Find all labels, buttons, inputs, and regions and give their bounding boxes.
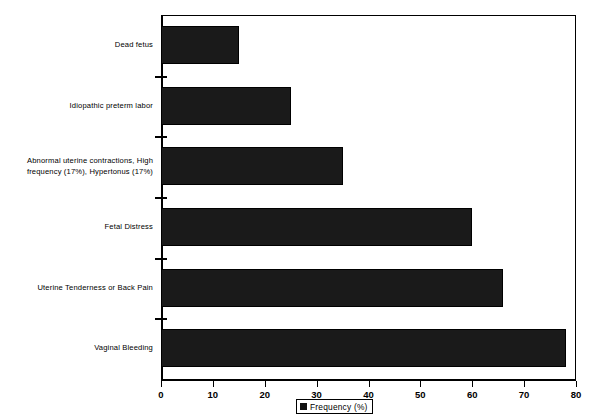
x-axis-tick <box>213 381 214 387</box>
bar <box>161 147 343 185</box>
category-axis-labels: Dead fetusIdiopathic preterm laborAbnorm… <box>0 15 157 379</box>
bar-row <box>161 258 576 319</box>
x-axis-tick-label: 10 <box>193 389 233 400</box>
x-axis-tick-label: 60 <box>452 389 492 400</box>
x-axis-tick-label: 0 <box>141 389 181 400</box>
x-axis-tick <box>472 381 473 387</box>
category-label: Dead fetus <box>0 40 153 51</box>
x-axis-tick <box>420 381 421 387</box>
bar <box>161 269 503 307</box>
y-axis-tick <box>155 258 167 260</box>
category-label-line: Uterine Tenderness or Back Pain <box>0 283 153 294</box>
bar <box>161 87 291 125</box>
bar <box>161 26 239 64</box>
bar-row <box>161 76 576 137</box>
y-axis-tick <box>155 136 167 138</box>
bar-row <box>161 318 576 379</box>
x-axis-tick-label: 30 <box>297 389 337 400</box>
bar-row <box>161 136 576 197</box>
bar <box>161 208 472 246</box>
bar-chart: Dead fetusIdiopathic preterm laborAbnorm… <box>0 0 596 420</box>
category-label-line: Abnormal uterine contractions, High <box>0 156 153 167</box>
x-axis-tick-label: 70 <box>504 389 544 400</box>
x-axis-tick-label: 50 <box>400 389 440 400</box>
x-axis-tick-label: 80 <box>556 389 596 400</box>
legend-swatch-icon <box>300 403 307 410</box>
bar <box>161 329 566 367</box>
category-label-line: Idiopathic preterm labor <box>0 101 153 112</box>
x-axis-tick <box>161 381 162 387</box>
category-label: Uterine Tenderness or Back Pain <box>0 283 153 294</box>
category-label-line: Dead fetus <box>0 40 153 51</box>
bar-row <box>161 197 576 258</box>
category-label: Idiopathic preterm labor <box>0 101 153 112</box>
category-label-line: Fetal Distress <box>0 222 153 233</box>
x-axis-tick <box>317 381 318 387</box>
x-axis-tick-label: 40 <box>349 389 389 400</box>
category-label: Vaginal Bleeding <box>0 343 153 354</box>
x-axis-tick <box>369 381 370 387</box>
legend-label: Frequency (%) <box>310 402 368 412</box>
x-axis-tick <box>265 381 266 387</box>
x-axis-tick-label: 20 <box>245 389 285 400</box>
x-axis-tick <box>524 381 525 387</box>
category-label: Fetal Distress <box>0 222 153 233</box>
y-axis-tick <box>155 318 167 320</box>
y-axis-tick <box>155 197 167 199</box>
category-label-line: frequency (17%), Hypertonus (17%) <box>0 167 153 178</box>
chart-legend: Frequency (%) <box>296 399 373 414</box>
category-label-line: Vaginal Bleeding <box>0 343 153 354</box>
bars-layer <box>161 15 576 379</box>
y-axis-tick <box>155 76 167 78</box>
x-axis-tick <box>576 381 577 387</box>
category-label: Abnormal uterine contractions, Highfrequ… <box>0 156 153 177</box>
bar-row <box>161 15 576 76</box>
